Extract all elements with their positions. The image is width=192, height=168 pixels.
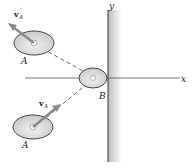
- wall-shade: [108, 10, 122, 162]
- velocity-sub-lower: A: [43, 103, 48, 109]
- x-axis-label: x: [181, 74, 186, 84]
- velocity-sub-upper: A: [18, 14, 23, 20]
- disk-b-center-icon: [91, 76, 96, 81]
- disk-label-lower: A: [21, 140, 29, 150]
- y-axis-label: y: [108, 1, 115, 11]
- velocity-prime-upper: ': [20, 6, 22, 13]
- disk-label-upper: A: [20, 56, 28, 66]
- disk-label-b: B: [98, 91, 106, 101]
- collision-diagram: y x v ' A A v A A B: [0, 0, 192, 168]
